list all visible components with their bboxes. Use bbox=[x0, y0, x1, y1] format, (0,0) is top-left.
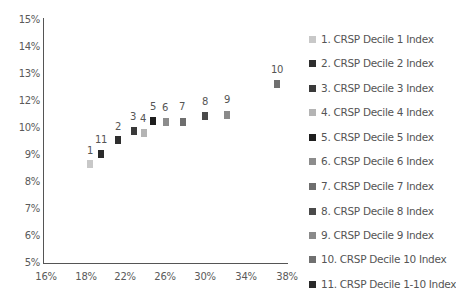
y-tick-label: 8% bbox=[0, 176, 40, 188]
legend-swatch-icon bbox=[309, 36, 316, 43]
data-point-label: 11 bbox=[91, 134, 111, 146]
legend-swatch-icon bbox=[309, 158, 316, 165]
legend-label: 7. CRSP Decile 7 Index bbox=[321, 180, 434, 193]
legend-label: 9. CRSP Decile 9 Index bbox=[321, 229, 434, 242]
y-tick-label: 6% bbox=[0, 230, 40, 242]
data-point-label: 8 bbox=[195, 96, 215, 108]
data-point-marker bbox=[131, 127, 137, 135]
legend-swatch-icon bbox=[309, 208, 316, 215]
legend-swatch-icon bbox=[309, 256, 316, 263]
data-point-marker bbox=[141, 129, 147, 137]
data-point-marker bbox=[180, 118, 186, 126]
legend-label: 5. CRSP Decile 5 Index bbox=[321, 131, 434, 144]
y-tick-label: 12% bbox=[0, 95, 40, 107]
x-tick-label: 30% bbox=[185, 271, 225, 283]
data-point-marker bbox=[163, 118, 169, 126]
x-tick-label: 38% bbox=[267, 271, 307, 283]
x-axis-line bbox=[43, 263, 288, 264]
legend-label: 10. CRSP Decile 10 Index bbox=[321, 253, 446, 266]
x-tick-label: 16% bbox=[26, 271, 66, 283]
y-tick-label: 10% bbox=[0, 122, 40, 134]
legend-label: 8. CRSP Decile 8 Index bbox=[321, 205, 434, 218]
y-tick-label: 13% bbox=[0, 68, 40, 80]
y-tick-label: 14% bbox=[0, 41, 40, 53]
y-tick-label: 5% bbox=[0, 257, 40, 269]
legend-swatch-icon bbox=[309, 109, 316, 116]
data-point-label: 10 bbox=[267, 64, 287, 76]
y-tick-label: 9% bbox=[0, 149, 40, 161]
data-point-marker bbox=[274, 80, 280, 88]
legend-swatch-icon bbox=[309, 85, 316, 92]
x-tick-label: 34% bbox=[226, 271, 266, 283]
legend-swatch-icon bbox=[309, 60, 316, 67]
data-point-marker bbox=[202, 112, 208, 120]
legend-label: 3. CRSP Decile 3 Index bbox=[321, 82, 434, 95]
data-point-marker bbox=[150, 117, 156, 125]
legend-label: 2. CRSP Decile 2 Index bbox=[321, 57, 434, 70]
data-point-marker bbox=[87, 160, 93, 168]
x-tick-label: 18% bbox=[66, 271, 106, 283]
legend-swatch-icon bbox=[309, 232, 316, 239]
data-point-label: 7 bbox=[172, 101, 192, 113]
data-point-marker bbox=[115, 136, 121, 144]
scatter-plot: 15%14%13%12%10%9%8%7%6%5% 16%18%22%26%30… bbox=[0, 0, 300, 300]
legend-swatch-icon bbox=[309, 134, 316, 141]
x-tick-label: 22% bbox=[105, 271, 145, 283]
data-point-label: 1 bbox=[80, 145, 100, 157]
y-tick-label: 7% bbox=[0, 203, 40, 215]
legend-label: 6. CRSP Decile 6 Index bbox=[321, 155, 434, 168]
legend-swatch-icon bbox=[309, 281, 316, 288]
data-point-label: 9 bbox=[217, 94, 237, 106]
legend-label: 11. CRSP Decile 1-10 Index bbox=[321, 278, 456, 291]
x-tick-label: 26% bbox=[145, 271, 185, 283]
legend-swatch-icon bbox=[309, 183, 316, 190]
y-tick-label: 15% bbox=[0, 14, 40, 26]
y-axis-line bbox=[43, 18, 44, 264]
legend-label: 4. CRSP Decile 4 Index bbox=[321, 106, 434, 119]
data-point-marker bbox=[224, 111, 230, 119]
legend-label: 1. CRSP Decile 1 Index bbox=[321, 33, 434, 46]
data-point-marker bbox=[98, 150, 104, 158]
